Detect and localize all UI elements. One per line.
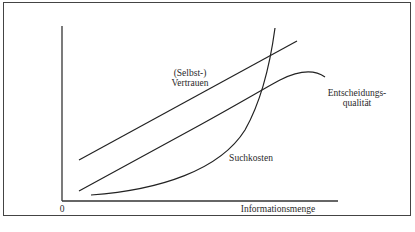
chart-canvas (0, 0, 415, 232)
label-qualitaet-1: Entscheidungs- (324, 88, 390, 98)
series-vertrauen (79, 41, 297, 160)
series-entscheidungsqualitaet (79, 72, 325, 191)
x-axis-label: Informationsmenge (232, 204, 324, 214)
origin-label: 0 (58, 204, 66, 214)
label-suchkosten: Suchkosten (216, 153, 286, 163)
label-qualitaet-2: qualität (324, 98, 390, 108)
label-vertrauen-2: Vertrauen (166, 78, 214, 88)
label-vertrauen-1: (Selbst-) (168, 68, 212, 78)
